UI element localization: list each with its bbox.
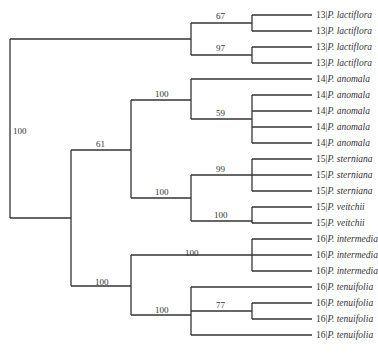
support-intermedia: 100 — [185, 248, 199, 258]
tip-label: 13|P. lactiflora — [316, 10, 372, 20]
support-lactiflora-b: 97 — [216, 43, 225, 53]
tip-label: 13|P. lactiflora — [316, 26, 372, 36]
support-lactiflora-a: 67 — [216, 11, 225, 21]
tip-label: 16|P. tenuifolia — [316, 314, 373, 324]
support-veitchii: 100 — [214, 210, 228, 220]
tip-label: 15|P. veitchii — [316, 218, 365, 228]
support-root: 100 — [13, 126, 27, 136]
support-intermedia-tenuifolia: 100 — [95, 277, 109, 287]
support-sterniana-veitchii: 100 — [155, 187, 169, 197]
tip-label: 14|P. anomala — [316, 74, 370, 84]
support-sterniana: 99 — [216, 164, 225, 174]
support-anomala: 100 — [155, 89, 169, 99]
tip-label: 13|P. lactiflora — [316, 58, 372, 68]
support-tenuifolia-inner: 77 — [216, 300, 225, 310]
tip-label: 16|P. intermedia — [316, 234, 378, 244]
tip-label: 16|P. intermedia — [316, 250, 378, 260]
tip-label: 14|P. anomala — [316, 90, 370, 100]
tip-label: 15|P. sterniana — [316, 186, 373, 196]
tip-label: 14|P. anomala — [316, 138, 370, 148]
support-tenuifolia: 100 — [155, 305, 169, 315]
tip-label: 16|P. tenuifolia — [316, 298, 373, 308]
tip-label: 13|P. lactiflora — [316, 42, 372, 52]
tip-label: 15|P. sterniana — [316, 154, 373, 164]
tip-label: 14|P. anomala — [316, 106, 370, 116]
tip-label: 15|P. veitchii — [316, 202, 365, 212]
tip-label: 16|P. intermedia — [316, 266, 378, 276]
tip-label: 14|P. anomala — [316, 122, 370, 132]
support-core: 61 — [96, 139, 105, 149]
tip-label: 16|P. tenuifolia — [316, 330, 373, 340]
tip-label: 15|P. sterniana — [316, 170, 373, 180]
tip-label: 16|P. tenuifolia — [316, 282, 373, 292]
support-anomala-inner: 59 — [216, 108, 225, 118]
